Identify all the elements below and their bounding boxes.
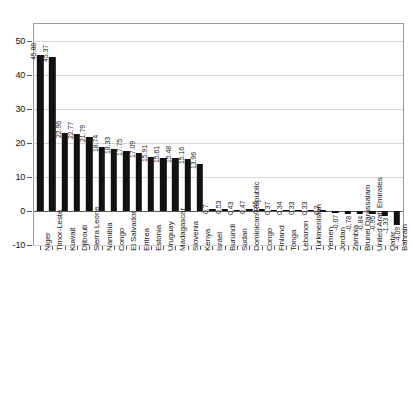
x-tick-label: Turkmenistan — [314, 204, 323, 251]
y-tick-mark — [27, 143, 32, 144]
x-tick-mark — [311, 246, 312, 250]
bar-value-label: 0.33 — [288, 202, 295, 215]
bar[interactable] — [394, 211, 400, 225]
bar-value-label: 15.48 — [165, 146, 172, 163]
x-tick-label: Djibouti — [80, 225, 89, 251]
x-tick-mark — [175, 246, 176, 250]
x-tick-label: Congo — [117, 228, 126, 251]
bar[interactable] — [344, 211, 350, 214]
x-tick-label: Burundi — [228, 224, 237, 251]
x-tick-mark — [360, 246, 361, 250]
x-tick-label: United Arab Emirates — [375, 177, 384, 251]
x-tick-mark — [52, 246, 53, 250]
y-tick-mark — [27, 177, 32, 178]
x-tick-label: Tonga — [289, 230, 298, 251]
bar-value-label: 18.74 — [92, 135, 99, 152]
x-tick-label: Lebanon — [301, 221, 310, 251]
x-tick-label: Zambia — [351, 225, 360, 251]
bar[interactable] — [111, 149, 117, 211]
x-tick-mark — [237, 246, 238, 250]
y-tick-label: 10 — [15, 172, 25, 182]
x-tick-mark — [212, 246, 213, 250]
bar-slot[interactable]: 18.33 — [108, 24, 120, 245]
y-tick-label: 20 — [15, 138, 25, 148]
bar-slot[interactable]: 15.91 — [145, 24, 157, 245]
x-tick-label: Finland — [277, 225, 286, 251]
x-tick-label: El Salvador — [129, 211, 138, 251]
x-tick-mark — [65, 246, 66, 250]
x-tick-mark — [114, 246, 115, 250]
bar-value-label: 15.91 — [141, 145, 148, 162]
x-tick-label: Qatar — [388, 231, 397, 251]
bar-value-label: 17.09 — [129, 141, 136, 158]
bar-value-label: 22.77 — [67, 122, 74, 139]
y-tick-label: 0 — [20, 206, 25, 216]
bar-value-label: 15.16 — [178, 147, 185, 164]
x-tick-label: Kuwait — [68, 228, 77, 251]
bar-slot[interactable]: 15.61 — [157, 24, 169, 245]
x-tick-label: Kenya — [203, 229, 212, 251]
x-tick-mark — [77, 246, 78, 250]
y-tick-mark — [27, 211, 32, 212]
x-axis-labels: NigerTimor-LesteKuwaitDjiboutiSierra Leo… — [34, 251, 403, 401]
y-tick-label: 30 — [15, 104, 25, 114]
x-tick-label: Sierra Leone — [92, 206, 101, 251]
x-tick-label: Estonia — [154, 225, 163, 251]
bar-value-label: 0.47 — [239, 201, 246, 214]
bar[interactable] — [123, 151, 129, 211]
x-tick-label: Uruguay — [166, 221, 175, 251]
x-tick-label: Congo — [265, 228, 274, 251]
bar[interactable] — [62, 133, 68, 211]
x-tick-label: Niger — [43, 232, 52, 251]
bar[interactable] — [332, 211, 338, 213]
y-axis: -1001020304050 — [0, 23, 31, 246]
bar[interactable] — [148, 157, 154, 211]
x-tick-label: Namibia — [105, 222, 114, 251]
y-tick-mark — [27, 41, 32, 42]
bar-slot[interactable]: -0.07 — [329, 24, 341, 245]
x-tick-mark — [385, 246, 386, 250]
x-tick-label: Eritrea — [142, 228, 151, 251]
x-tick-label: Jordan — [338, 227, 347, 251]
bar-value-label: 45.88 — [30, 43, 37, 60]
x-tick-mark — [102, 246, 103, 250]
bar[interactable] — [37, 55, 43, 211]
x-tick-mark — [372, 246, 373, 250]
y-tick-label: -10 — [13, 240, 25, 250]
y-tick-label: 40 — [15, 70, 25, 80]
bar-value-label: 45.37 — [42, 45, 49, 62]
x-tick-mark — [262, 246, 263, 250]
bar-value-label: 13.96 — [190, 152, 197, 169]
x-tick-mark — [163, 246, 164, 250]
x-tick-mark — [249, 246, 250, 250]
y-tick-mark — [27, 75, 32, 76]
x-tick-label: Sudan — [240, 228, 249, 251]
y-tick-mark — [27, 245, 32, 246]
x-tick-mark — [323, 246, 324, 250]
bar-value-label: 0.33 — [301, 202, 308, 215]
bar-value-label: 0.34 — [276, 202, 283, 215]
bar-slot[interactable]: -4.09 — [391, 24, 403, 245]
x-tick-mark — [200, 246, 201, 250]
bar[interactable] — [98, 147, 104, 211]
bar-value-label: 0.7 — [202, 204, 209, 213]
x-tick-label: Bahrain — [400, 224, 409, 251]
x-tick-mark — [286, 246, 287, 250]
x-tick-mark — [225, 246, 226, 250]
x-tick-label: Yemen — [326, 227, 335, 251]
bar[interactable] — [160, 158, 166, 211]
x-tick-mark — [139, 246, 140, 250]
bar-value-label: 17.75 — [116, 139, 123, 156]
bar-slot[interactable]: -0.78 — [342, 24, 354, 245]
bars-group: 45.8845.3722.9622.7721.7918.7418.3317.75… — [34, 24, 403, 245]
x-tick-label: Dominican Republic — [252, 182, 261, 251]
bar[interactable] — [74, 134, 80, 211]
x-tick-mark — [335, 246, 336, 250]
x-tick-label: Slovenia — [191, 221, 200, 251]
bar[interactable] — [172, 158, 178, 211]
bar-value-label: 15.61 — [153, 146, 160, 163]
bar-value-label: 0.37 — [264, 202, 271, 215]
bar-chart: -1001020304050 45.8845.3722.9622.7721.79… — [0, 0, 413, 403]
x-tick-mark — [348, 246, 349, 250]
x-tick-mark — [89, 246, 90, 250]
